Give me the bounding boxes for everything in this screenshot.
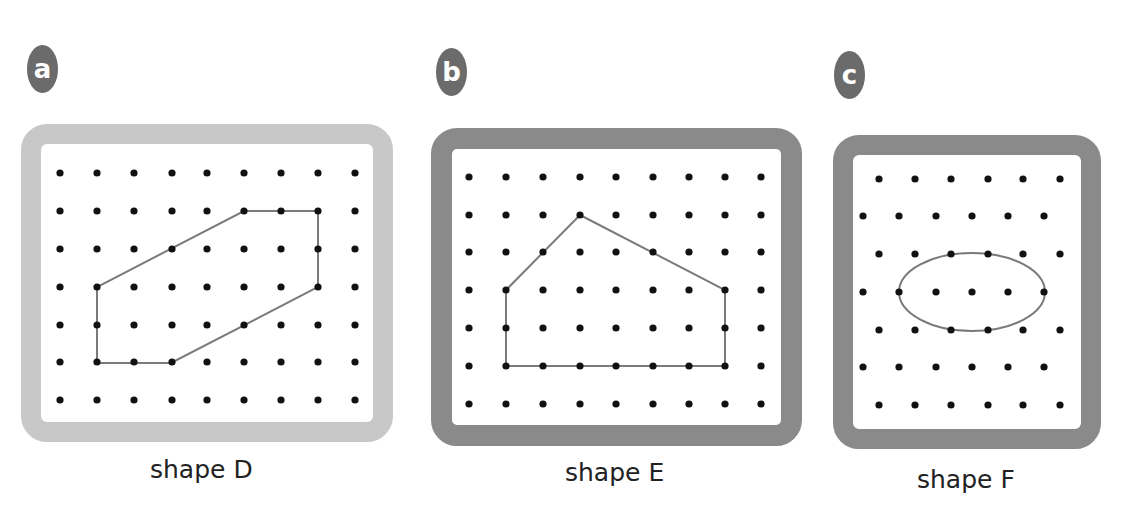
grid-dot xyxy=(203,358,210,365)
grid-dot xyxy=(168,207,175,214)
grid-dot xyxy=(93,283,100,290)
grid-dot xyxy=(56,321,63,328)
panel-a-figure xyxy=(56,169,358,403)
grid-dot xyxy=(314,283,321,290)
grid-dot xyxy=(240,207,247,214)
grid-dot xyxy=(277,245,284,252)
grid-dot xyxy=(203,169,210,176)
grid-dot xyxy=(93,358,100,365)
grid-dot xyxy=(984,250,991,257)
grid-dot xyxy=(984,326,991,333)
grid-dot xyxy=(351,321,358,328)
grid-dot xyxy=(465,400,472,407)
grid-dot xyxy=(539,362,546,369)
grid-dot xyxy=(612,362,619,369)
grid-dot xyxy=(130,321,137,328)
grid-dot xyxy=(465,286,472,293)
grid-dot xyxy=(93,169,100,176)
grid-dot xyxy=(576,173,583,180)
grid-dot xyxy=(859,363,866,370)
grid-dot xyxy=(649,173,656,180)
grid-dot xyxy=(947,250,954,257)
grid-dot xyxy=(168,283,175,290)
grid-dot xyxy=(757,362,764,369)
grid-dot xyxy=(539,173,546,180)
grid-dot xyxy=(56,169,63,176)
grid-dot xyxy=(947,175,954,182)
grid-dot xyxy=(277,283,284,290)
grid-dot xyxy=(721,286,728,293)
grid-dot xyxy=(576,400,583,407)
grid-dot xyxy=(1056,175,1063,182)
grid-dot xyxy=(314,169,321,176)
grid-dot xyxy=(984,401,991,408)
grid-dot xyxy=(757,173,764,180)
grid-dot xyxy=(539,286,546,293)
grid-dot xyxy=(757,248,764,255)
grid-dot xyxy=(539,400,546,407)
grid-dot xyxy=(757,211,764,218)
grid-dot xyxy=(240,396,247,403)
grid-dot xyxy=(968,363,975,370)
grid-dot xyxy=(721,211,728,218)
grid-dot xyxy=(1019,175,1026,182)
grid-dot xyxy=(130,358,137,365)
grid-dot xyxy=(314,396,321,403)
grid-dot xyxy=(1040,212,1047,219)
grid-dot xyxy=(685,362,692,369)
grid-dot xyxy=(465,362,472,369)
grid-dot xyxy=(465,324,472,331)
grid-dot xyxy=(1019,401,1026,408)
grid-dot xyxy=(612,173,619,180)
grid-dot xyxy=(240,321,247,328)
grid-dot xyxy=(685,248,692,255)
grid-dot xyxy=(277,169,284,176)
grid-dot xyxy=(93,321,100,328)
grid-dot xyxy=(351,169,358,176)
grid-dot xyxy=(875,326,882,333)
grid-dot xyxy=(721,400,728,407)
grid-dot xyxy=(895,363,902,370)
grid-dot xyxy=(984,175,991,182)
grid-dot xyxy=(721,248,728,255)
grid-dot xyxy=(351,358,358,365)
grid-dot xyxy=(539,211,546,218)
grid-dot xyxy=(576,324,583,331)
grid-dot xyxy=(130,169,137,176)
grid-dot xyxy=(130,283,137,290)
grid-dot xyxy=(539,324,546,331)
grid-dot xyxy=(56,358,63,365)
grid-dot xyxy=(168,321,175,328)
grid-dot xyxy=(203,321,210,328)
grid-dot xyxy=(56,245,63,252)
grid-dot xyxy=(612,400,619,407)
grid-dot xyxy=(1040,288,1047,295)
grid-dot xyxy=(1019,326,1026,333)
grid-dot xyxy=(314,358,321,365)
grid-dot xyxy=(649,362,656,369)
grid-dot xyxy=(465,173,472,180)
grid-dot xyxy=(277,358,284,365)
grid-dot xyxy=(685,400,692,407)
grid-dot xyxy=(168,358,175,365)
grid-dot xyxy=(130,396,137,403)
grid-dot xyxy=(240,283,247,290)
grid-dot xyxy=(649,400,656,407)
grid-dot xyxy=(947,326,954,333)
grid-dot xyxy=(968,212,975,219)
grid-dot xyxy=(721,362,728,369)
grid-dot xyxy=(168,245,175,252)
grid-dot xyxy=(875,250,882,257)
grid-dot xyxy=(721,324,728,331)
grid-dot xyxy=(649,324,656,331)
grid-dot xyxy=(351,283,358,290)
grid-dot xyxy=(351,245,358,252)
panel-b-figure xyxy=(465,173,764,407)
grid-dot xyxy=(351,207,358,214)
grid-dot xyxy=(1004,363,1011,370)
grid-dot xyxy=(685,286,692,293)
grid-dot xyxy=(721,173,728,180)
grid-dot xyxy=(130,207,137,214)
panel-c-figure xyxy=(859,175,1063,408)
grid-dot xyxy=(277,321,284,328)
